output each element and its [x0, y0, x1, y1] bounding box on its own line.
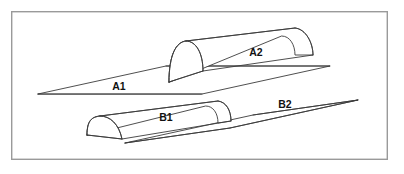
label-b2: B2 [278, 98, 292, 110]
label-a1: A1 [112, 80, 126, 92]
label-a2: A2 [249, 46, 263, 58]
diagram-canvas: A1 A2 B1 B2 [0, 0, 404, 174]
geometry-figure: A1 A2 B1 B2 [0, 0, 404, 174]
label-b1: B1 [159, 111, 173, 123]
